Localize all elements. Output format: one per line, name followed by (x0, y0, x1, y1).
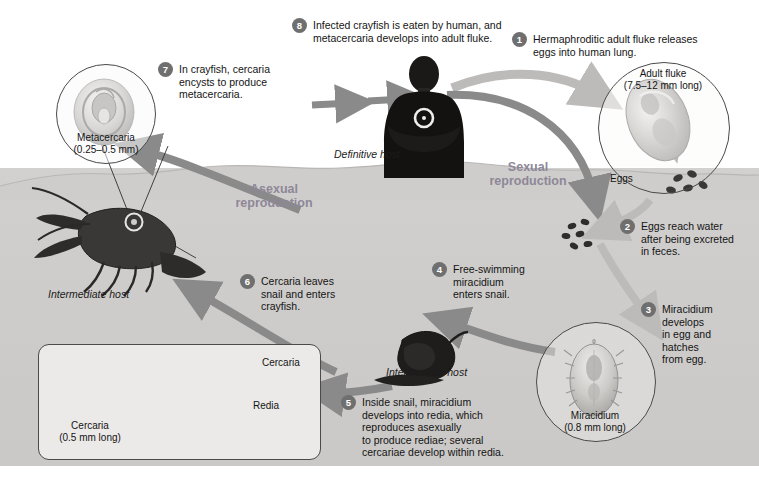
step-7-bullet: 7 (158, 62, 173, 77)
step-8-text: Infected crayfish is eaten by human, and… (313, 19, 502, 44)
intermediate-host-label-crayfish: Intermediate host (48, 288, 168, 300)
step-6-bullet: 6 (240, 274, 255, 289)
metacercaria-caption: Metacercaria (0.25–0.5 mm) (46, 132, 166, 155)
arrow-step8-b (368, 99, 404, 101)
page-footer-whitespace (0, 466, 759, 495)
step-4-text: Free-swimming miracidium enters snail. (453, 263, 525, 301)
step-1-bullet: 1 (512, 32, 527, 47)
definitive-host-label: Definitive host (334, 148, 444, 160)
step-2-bullet: 2 (620, 219, 635, 234)
step-3-bullet: 3 (641, 302, 656, 317)
cercaria-caption: Cercaria (0.5 mm long) (30, 420, 150, 443)
cercaria-inline-label: Cercaria (262, 357, 300, 369)
step-5-text: Inside snail, miracidium develops into r… (362, 396, 504, 459)
arrow-step8-a (312, 103, 352, 105)
lifecycle-diagram-page: 8 Infected crayfish is eaten by human, a… (0, 0, 759, 495)
step-3-text: Miracidium develops in egg and hatches f… (662, 303, 713, 366)
asexual-reproduction-label: Asexual reproduction (214, 182, 334, 210)
step-8-bullet: 8 (292, 18, 307, 33)
step-7-text: In crayfish, cercaria encysts to produce… (179, 63, 270, 101)
redia-inline-label: Redia (253, 400, 279, 412)
intermediate-host-label-snail: Intermediate host (386, 366, 506, 378)
eggs-label: Eggs (610, 173, 633, 185)
step-6-text: Cercaria leaves snail and enters crayfis… (261, 275, 335, 313)
step-5-bullet: 5 (341, 395, 356, 410)
step-2-text: Eggs reach water after being excreted in… (641, 220, 734, 258)
step-4-bullet: 4 (432, 262, 447, 277)
diagram-scene: 8 Infected crayfish is eaten by human, a… (0, 0, 759, 466)
miracidium-caption: Miracidium (0.8 mm long) (535, 410, 655, 433)
adult-fluke-caption: Adult fluke (7.5–12 mm long) (601, 68, 725, 91)
arrow-step1 (452, 74, 597, 94)
sexual-reproduction-label: Sexual reproduction (466, 160, 590, 188)
step-1-text: Hermaphroditic adult fluke releases eggs… (533, 33, 698, 58)
